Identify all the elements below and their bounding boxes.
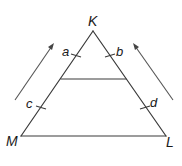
- segment-label-b: b: [116, 44, 123, 59]
- segment-label-d: d: [150, 95, 158, 110]
- side-km: [21, 31, 93, 136]
- left-arrow-icon: [15, 43, 54, 100]
- side-kl: [93, 31, 166, 136]
- vertex-label-k: K: [88, 13, 98, 29]
- right-arrow-icon: [133, 43, 173, 100]
- triangle-diagram: K M L a b c d: [0, 0, 182, 166]
- segment-label-a: a: [62, 44, 69, 59]
- segment-label-c: c: [26, 96, 33, 111]
- vertex-label-l: L: [166, 134, 174, 150]
- vertex-label-m: M: [6, 133, 18, 149]
